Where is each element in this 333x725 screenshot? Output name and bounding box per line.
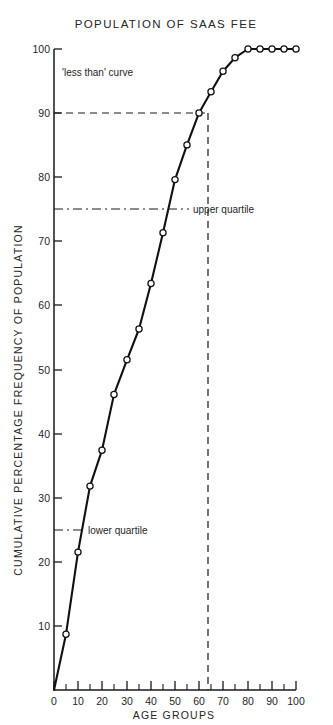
x-tick-label: 40: [145, 695, 157, 707]
y-tick-label: 80: [38, 171, 50, 183]
x-tick-label: 20: [96, 695, 108, 707]
data-point: [148, 280, 154, 286]
curve-label: 'less than' curve: [62, 67, 134, 78]
data-point: [160, 230, 166, 236]
upper-quartile-label: upper quartile: [193, 204, 255, 215]
x-tick-label: 100: [287, 695, 305, 707]
data-point: [220, 68, 226, 74]
data-point: [87, 483, 93, 489]
y-tick-label: 30: [38, 492, 50, 504]
y-tick-label: 20: [38, 556, 50, 568]
data-point: [281, 46, 287, 52]
data-point: [184, 142, 190, 148]
data-point: [257, 46, 263, 52]
x-tick-label: 60: [193, 695, 205, 707]
y-tick-label: 50: [38, 364, 50, 376]
y-tick-label: 60: [38, 299, 50, 311]
y-tick-label: 10: [38, 620, 50, 632]
y-tick-label: 70: [38, 235, 50, 247]
x-tick-label: 0: [51, 695, 57, 707]
x-tick-label: 50: [169, 695, 181, 707]
data-point: [196, 110, 202, 116]
y-tick-label: 100: [32, 43, 50, 55]
data-point: [111, 391, 117, 397]
data-point: [232, 55, 238, 61]
data-point: [172, 177, 178, 183]
y-axis-title: CUMULATIVE PERCENTAGE FREQUENCY OF POPUL…: [12, 224, 24, 575]
data-point: [208, 89, 214, 95]
data-point: [75, 549, 81, 555]
data-point: [63, 631, 69, 637]
data-point: [293, 46, 299, 52]
y-tick-label: 40: [38, 428, 50, 440]
x-axis-title: AGE GROUPS: [133, 709, 216, 721]
x-tick-label: 70: [217, 695, 229, 707]
x-tick-label: 90: [266, 695, 278, 707]
data-point: [245, 46, 251, 52]
x-tick-label: 80: [242, 695, 254, 707]
chart-figure: POPULATION OF SAAS FEE CUMULATIVE PERCEN…: [0, 0, 333, 725]
lower-quartile-label: lower quartile: [88, 525, 148, 536]
chart-title: POPULATION OF SAAS FEE: [75, 18, 258, 30]
data-point: [99, 447, 105, 453]
x-tick-label: 30: [121, 695, 133, 707]
x-tick-label: 10: [72, 695, 84, 707]
y-tick-label: 90: [38, 107, 50, 119]
data-point: [124, 357, 130, 363]
data-point: [269, 46, 275, 52]
data-point: [136, 326, 142, 332]
